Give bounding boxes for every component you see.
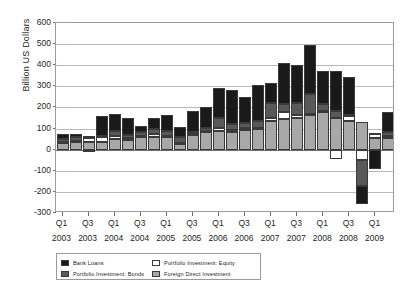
bar-segment (304, 114, 316, 116)
bar-segment (291, 118, 303, 150)
bar-segment (109, 136, 121, 139)
bar-q3-2003[interactable] (83, 23, 95, 212)
bar-q4-2007[interactable] (304, 23, 316, 212)
legend-item-portfolio-equity[interactable]: Portfolio Investment: Equity (152, 260, 256, 266)
legend-item-portfolio-bonds[interactable]: Portfolio Investment: Bonds (61, 271, 152, 277)
x-tick-mark (374, 212, 375, 216)
bar-segment (96, 142, 108, 149)
bar-segment (122, 118, 134, 134)
bar-segment (122, 140, 134, 150)
bar-q1-2008[interactable] (317, 23, 329, 212)
bar-q2-2006[interactable] (226, 23, 238, 212)
bar-segment (57, 139, 69, 142)
bar-segment (382, 112, 394, 133)
bar-segment (252, 85, 264, 120)
chart-legend: Bank Loans Portfolio Investment: Equity … (56, 253, 261, 280)
bar-segment (148, 134, 160, 137)
bar-segment (96, 116, 108, 136)
bar-segment (109, 131, 121, 136)
y-tick-label: 500 (5, 38, 51, 48)
bar-segment (135, 137, 147, 149)
legend-swatch-bank-loans (61, 260, 69, 266)
bar-segment (356, 160, 368, 186)
bar-q1-2007[interactable] (265, 23, 277, 212)
legend-item-fdi[interactable]: Foreign Direct Investment (152, 271, 256, 277)
bar-q4-2008[interactable] (356, 23, 368, 212)
bar-segment (148, 129, 160, 133)
bar-segment (161, 131, 173, 136)
bar-q2-2009[interactable] (382, 23, 394, 212)
legend-swatch-fdi (152, 271, 160, 277)
bar-segment (265, 121, 277, 150)
bar-q1-2006[interactable] (213, 23, 225, 212)
x-tick-mark (88, 212, 89, 216)
bar-segment (317, 112, 329, 150)
bar-segment (265, 118, 277, 121)
bar-segment (70, 134, 82, 137)
bar-segment (70, 137, 82, 141)
x-tick-mark (218, 212, 219, 216)
bar-segment (96, 137, 108, 142)
bar-q3-2006[interactable] (239, 23, 251, 212)
bar-q2-2008[interactable] (330, 23, 342, 212)
bar-segment (317, 71, 329, 104)
bar-segment (83, 136, 95, 138)
legend-row: Portfolio Investment: Bonds Foreign Dire… (61, 268, 256, 279)
bar-segment (252, 128, 264, 130)
x-tick-mark (166, 212, 167, 216)
x-tick-mark (348, 212, 349, 216)
bar-segment (278, 104, 290, 111)
bar-segment (161, 136, 173, 138)
bar-segment (330, 71, 342, 111)
y-tick-label: 100 (5, 123, 51, 133)
bar-segment (356, 186, 368, 204)
bar-q4-2003[interactable] (96, 23, 108, 212)
legend-label-bank-loans: Bank Loans (73, 260, 104, 266)
bar-segment (200, 131, 212, 133)
bar-segment (83, 150, 95, 152)
bar-segment (356, 150, 368, 160)
bar-q4-2004[interactable] (148, 23, 160, 212)
bar-segment (382, 132, 394, 136)
bar-q1-2009[interactable] (369, 23, 381, 212)
bar-segment (369, 150, 381, 169)
bar-segment (213, 131, 225, 150)
bar-q1-2005[interactable] (161, 23, 173, 212)
bar-segment (57, 142, 69, 144)
y-tick-label: 300 (5, 80, 51, 90)
bar-q4-2005[interactable] (200, 23, 212, 212)
bar-segment (213, 88, 225, 118)
bar-segment (213, 118, 225, 128)
bar-q1-2004[interactable] (109, 23, 121, 212)
bar-segment (226, 132, 238, 150)
bar-q2-2005[interactable] (174, 23, 186, 212)
bar-q2-2007[interactable] (278, 23, 290, 212)
bar-q1-2003[interactable] (57, 23, 69, 212)
bar-segment (57, 143, 69, 149)
chart-canvas: Billion US Dollars 6005004003002001000-1… (0, 0, 417, 297)
x-tick-label: Q12009 (354, 218, 394, 243)
bar-segment (226, 124, 238, 130)
bar-segment (148, 137, 160, 150)
y-tick-label: 200 (5, 101, 51, 111)
bar-q3-2004[interactable] (135, 23, 147, 212)
bar-segment (70, 141, 82, 143)
bar-segment (109, 114, 121, 131)
legend-label-fdi: Foreign Direct Investment (164, 271, 231, 277)
bar-segment (265, 103, 277, 117)
bar-q3-2005[interactable] (187, 23, 199, 212)
bar-q3-2007[interactable] (291, 23, 303, 212)
bar-segment (83, 142, 95, 150)
bar-q2-2004[interactable] (122, 23, 134, 212)
bar-segment (226, 130, 238, 132)
x-tick-quarter: Q1 (354, 218, 394, 228)
bar-segment (278, 119, 290, 149)
bar-segment (278, 63, 290, 104)
bar-segment (291, 103, 303, 116)
bar-q4-2006[interactable] (252, 23, 264, 212)
bar-segment (356, 122, 368, 150)
bar-q3-2008[interactable] (343, 23, 355, 212)
bar-q2-2003[interactable] (70, 23, 82, 212)
legend-item-bank-loans[interactable]: Bank Loans (61, 260, 152, 266)
bar-segment (135, 132, 147, 135)
